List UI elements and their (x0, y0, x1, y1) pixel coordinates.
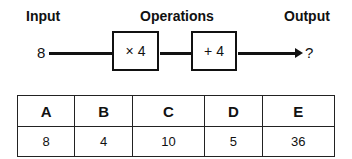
table-header: E (262, 96, 334, 127)
table-header: B (75, 96, 132, 127)
operation-label: + 4 (204, 43, 224, 59)
output-heading: Output (284, 8, 330, 24)
table-cell: 36 (262, 127, 334, 157)
connector-line (160, 52, 191, 55)
operations-heading: Operations (140, 8, 214, 24)
table-cell: 8 (18, 127, 75, 157)
operation-box-add: + 4 (191, 31, 237, 71)
output-value: ? (305, 44, 313, 61)
table-cell: 10 (132, 127, 204, 157)
connector-line (49, 52, 112, 55)
arrow-right-icon (295, 48, 303, 58)
table-cell: 4 (75, 127, 132, 157)
table-header-row: A B C D E (18, 96, 335, 127)
table-cell: 5 (205, 127, 262, 157)
options-table: A B C D E 8 4 10 5 36 (17, 95, 335, 157)
table-row: 8 4 10 5 36 (18, 127, 335, 157)
table-header: A (18, 96, 75, 127)
table-header: C (132, 96, 204, 127)
input-heading: Input (26, 8, 60, 24)
operation-box-multiply: × 4 (112, 31, 159, 71)
connector-line (238, 52, 296, 55)
operation-label: × 4 (126, 43, 146, 59)
input-value: 8 (37, 44, 45, 61)
table-header: D (205, 96, 262, 127)
